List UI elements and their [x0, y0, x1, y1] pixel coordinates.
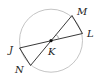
chord-ML: [72, 16, 83, 34]
label-M: M: [76, 6, 88, 17]
label-N: N: [14, 64, 25, 75]
angle-arc-MKL: [56, 35, 59, 39]
chord-JN: [20, 48, 31, 66]
label-L: L: [86, 28, 94, 39]
label-J: J: [7, 44, 14, 55]
label-K: K: [47, 46, 56, 57]
circle-diagram: M L J N K: [0, 0, 101, 78]
center-point-K: [49, 39, 52, 42]
